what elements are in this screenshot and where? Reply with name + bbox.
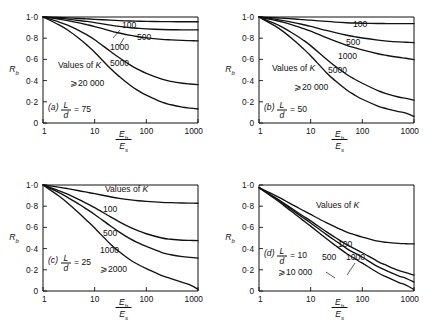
curve-b-1 [259, 17, 414, 43]
y-tick-label: 1·0 [26, 12, 38, 22]
y-tick-label: 0·4 [242, 76, 254, 86]
x-tick-label: 1 [258, 294, 263, 304]
x-axis-title-denominator: Es [335, 141, 344, 153]
x-tick-label: 10 [306, 294, 316, 304]
x-tick-label: 1000 [401, 126, 420, 136]
curve-b-3 [259, 17, 414, 100]
curve-label-d-1: 500 [322, 252, 337, 262]
curve-label-b-1: 500 [346, 37, 361, 47]
curve-label-c-2: 1000 [100, 245, 119, 255]
curve-label-a-4: ⩾20 000 [70, 78, 105, 88]
y-tick-label: 0·6 [26, 222, 38, 232]
x-tick-label: 100 [355, 126, 369, 136]
curve-label-a-1: 500 [137, 32, 152, 42]
y-axis-title: Rb [225, 232, 235, 244]
x-axis-title-numerator: Eb [119, 297, 129, 309]
y-tick-label: 0·4 [26, 244, 38, 254]
curve-label-a-0: 100 [122, 20, 137, 30]
values-of-k-label: Values of K [58, 60, 103, 70]
panel-caption-d: (d) [264, 248, 275, 258]
y-tick-label: 0 [33, 286, 38, 296]
y-tick-label: 0·8 [242, 201, 254, 211]
x-tick-label: 10 [90, 126, 100, 136]
curve-label-b-4: ⩾20 000 [294, 82, 329, 92]
curve-label-leader [326, 272, 335, 278]
y-tick-label: 1·0 [242, 180, 254, 190]
curve-label-c-0: 100 [103, 204, 118, 214]
panel-ratio-value-c: = 25 [74, 257, 91, 267]
x-tick-label: 100 [355, 294, 369, 304]
x-tick-label: 1000 [185, 126, 204, 136]
y-tick-label: 0·4 [242, 244, 254, 254]
y-tick-label: 0 [249, 286, 254, 296]
y-axis-title: Rb [9, 232, 19, 244]
y-tick-label: 1·0 [242, 12, 254, 22]
y-tick-label: 0·8 [26, 201, 38, 211]
x-tick-label: 1000 [185, 294, 204, 304]
axes-a: 1·00·80·60·40·201101001000 [26, 12, 203, 136]
plot-panel-a: 1·00·80·60·40·201101001000RbEbEsValues o… [0, 0, 216, 167]
curve-label-d-3: ⩾10 000 [278, 267, 313, 277]
curve-c-2 [43, 185, 198, 258]
y-tick-label: 0·6 [242, 54, 254, 64]
y-tick-label: 0·2 [26, 97, 38, 107]
axes-c: 1·00·80·60·40·201101001000 [26, 180, 203, 304]
curve-label-a-2: 1000 [110, 42, 129, 52]
y-tick-label: 0·6 [26, 54, 38, 64]
x-axis-title-denominator: Es [335, 309, 344, 321]
y-tick-label: 0·2 [242, 97, 254, 107]
y-axis-title: Rb [9, 64, 19, 76]
curve-label-b-2: 1000 [338, 51, 357, 61]
panel-ratio-value-d: = 10 [290, 250, 307, 260]
x-tick-label: 100 [139, 126, 153, 136]
x-tick-label: 1000 [401, 294, 420, 304]
curve-label-b-0: 100 [353, 19, 368, 29]
figure-container: 1·00·80·60·40·201101001000RbEbEsValues o… [0, 0, 433, 335]
panel-ratio-denominator-b: d [280, 110, 285, 120]
x-axis-title-numerator: Eb [119, 129, 129, 141]
y-tick-label: 1·0 [26, 180, 38, 190]
y-tick-label: 0·2 [242, 265, 254, 275]
y-tick-label: 0·8 [242, 33, 254, 43]
x-axis-title-denominator: Es [119, 309, 128, 321]
values-of-k-label: Values of K [272, 63, 317, 73]
curve-d-0 [259, 188, 414, 244]
values-of-k-label: Values of K [105, 184, 150, 194]
curve-label-c-3: ⩾2000 [100, 264, 127, 274]
panel-ratio-numerator-d: L [280, 246, 285, 256]
x-tick-label: 1 [42, 126, 47, 136]
panel-ratio-numerator-a: L [64, 100, 69, 110]
curve-label-leader [347, 263, 355, 275]
panel-ratio-denominator-a: d [64, 110, 69, 120]
x-axis-title-denominator: Es [119, 141, 128, 153]
y-tick-label: 0·2 [26, 265, 38, 275]
plot-panel-d: 1·00·80·60·40·201101001000RbEbEsValues o… [216, 168, 432, 335]
panel-ratio-denominator-d: d [280, 256, 285, 266]
curve-label-c-1: 500 [103, 228, 118, 238]
curve-label-d-2: 1000 [346, 252, 365, 262]
plot-panel-c: 1·00·80·60·40·201101001000RbEbEsValues o… [0, 168, 216, 335]
x-axis-title-numerator: Eb [335, 297, 345, 309]
curve-label-d-0: 100 [338, 239, 353, 249]
panel-caption-c: (c) [48, 255, 58, 265]
x-tick-label: 1 [42, 294, 47, 304]
y-tick-label: 0 [33, 118, 38, 128]
panel-ratio-numerator-c: L [64, 253, 69, 263]
values-of-k-label: Values of K [316, 200, 361, 210]
curve-a-1 [43, 17, 198, 30]
panel-caption-b: (b) [264, 102, 275, 112]
y-tick-label: 0·4 [26, 76, 38, 86]
y-tick-label: 0·8 [26, 33, 38, 43]
x-axis-title-numerator: Eb [335, 129, 345, 141]
panel-ratio-value-b: = 50 [290, 104, 307, 114]
panel-caption-a: (a) [48, 102, 59, 112]
x-tick-label: 100 [139, 294, 153, 304]
panel-ratio-denominator-c: d [64, 263, 69, 273]
curve-label-a-3: 5000 [110, 58, 129, 68]
y-tick-label: 0 [249, 118, 254, 128]
x-tick-label: 10 [306, 126, 316, 136]
panel-ratio-value-a: = 75 [74, 104, 91, 114]
panel-ratio-numerator-b: L [280, 100, 285, 110]
x-tick-label: 1 [258, 126, 263, 136]
y-axis-title: Rb [225, 64, 235, 76]
